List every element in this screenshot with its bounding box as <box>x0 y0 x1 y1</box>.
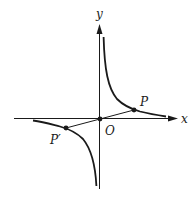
point-p-prime-label: P′ <box>49 133 61 147</box>
y-axis-arrow-icon <box>97 24 103 34</box>
x-axis-arrow-icon <box>168 116 178 122</box>
y-axis-label: y <box>95 7 103 21</box>
origin-label: O <box>105 124 115 138</box>
hyperbola-branch-right <box>104 37 166 117</box>
point-origin <box>98 117 103 122</box>
hyperbola-diagram: y x O P P′ <box>0 0 196 203</box>
x-axis-label: x <box>181 112 188 126</box>
point-p-label: P <box>139 95 149 109</box>
hyperbola-branch-left <box>33 121 96 187</box>
point-p <box>132 108 137 113</box>
point-p-prime <box>64 126 69 131</box>
